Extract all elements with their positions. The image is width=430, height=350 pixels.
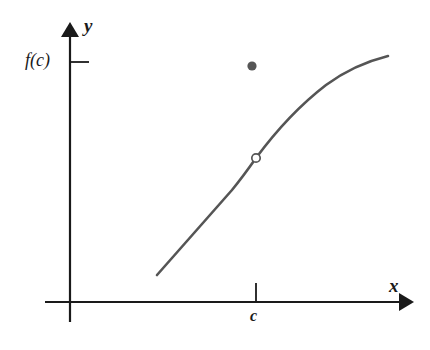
plot-canvas (0, 0, 430, 350)
y-axis-arrowhead (61, 22, 79, 37)
x-axis-tick-label-c: c (250, 308, 257, 324)
x-axis-label: x (389, 276, 399, 295)
y-axis-label: y (84, 16, 92, 35)
figure-root: y x c f(c) (0, 0, 430, 350)
x-axis-arrowhead (399, 293, 414, 311)
function-curve (157, 56, 388, 275)
open-point-marker (252, 154, 260, 162)
y-axis-tick-label-fc: f(c) (25, 51, 50, 69)
filled-point-marker (247, 61, 256, 70)
